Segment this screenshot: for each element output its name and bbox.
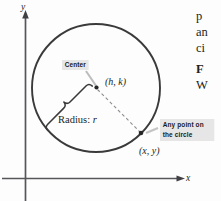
y-axis-label: y (21, 3, 25, 13)
any-point-callout-line1: Any point on (163, 121, 204, 128)
radius-variable: r (93, 114, 97, 125)
margin-body-text: p an ci (196, 8, 221, 56)
margin-subheading-text: W (196, 78, 221, 94)
any-point-leader-line (146, 128, 158, 133)
center-point-dot (94, 85, 98, 89)
radius-label: Radius: r (58, 115, 97, 126)
center-coordinates-label: (h, k) (105, 77, 126, 87)
margin-body-line-2: an (196, 24, 221, 40)
any-point-callout-label: Any point onthe circle (160, 119, 214, 141)
diagram-canvas (0, 0, 221, 201)
margin-heading-text: F (196, 62, 221, 78)
any-point-callout-line2: the circle (163, 131, 193, 138)
margin-body-line-1: p (196, 8, 221, 24)
x-axis-label: x (186, 174, 190, 184)
margin-heading-block: F W (196, 62, 221, 93)
radius-label-text: Radius: (58, 114, 93, 125)
circle-point-dot (139, 131, 144, 136)
center-callout-label: Center (62, 60, 89, 70)
circle-definition-figure: y x Center Any point onthe circle (h, k)… (0, 0, 221, 201)
point-coordinates-label: (x, y) (139, 146, 160, 156)
radius-dashed-line (98, 90, 141, 133)
x-axis-arrowhead (177, 175, 186, 181)
margin-body-line-3: ci (196, 40, 221, 56)
